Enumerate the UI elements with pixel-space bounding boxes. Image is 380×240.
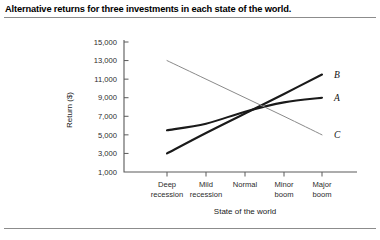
y-tick-label: 13,000 <box>94 56 117 65</box>
y-axis-title: Return ($) <box>65 92 74 128</box>
y-tick-label: 15,000 <box>94 38 117 47</box>
x-axis-category-labels: DeeprecessionMildrecessionNormalMinorboo… <box>151 180 332 199</box>
x-axis-tick-marks <box>167 172 322 177</box>
series-label-c: C <box>334 130 341 140</box>
x-category-label: recession <box>151 190 184 199</box>
y-tick-label: 1,000 <box>98 168 117 177</box>
series-label-b: B <box>334 70 340 80</box>
figure-divider-bottom <box>4 228 376 229</box>
series-lines <box>167 61 322 154</box>
axis-frame <box>124 40 357 172</box>
y-tick-label: 9,000 <box>98 93 117 102</box>
y-tick-label: 7,000 <box>98 112 117 121</box>
y-axis-tick-labels: 1,0003,0005,0007,0009,00011,00013,00015,… <box>94 38 117 177</box>
x-category-label: Normal <box>233 180 258 189</box>
x-category-label: Deep <box>158 180 176 189</box>
x-category-label: Major <box>313 180 332 189</box>
line-chart: 1,0003,0005,0007,0009,00011,00013,00015,… <box>0 18 380 228</box>
y-axis-tick-marks <box>124 42 129 153</box>
series-line-c <box>167 61 322 135</box>
y-tick-label: 5,000 <box>98 131 117 140</box>
x-category-label: Minor <box>275 180 294 189</box>
figure-caption: Alternative returns for three investment… <box>5 3 377 15</box>
figure-container: Alternative returns for three investment… <box>0 0 380 240</box>
x-category-label: boom <box>275 190 294 199</box>
series-label-a: A <box>333 93 340 103</box>
x-axis-title: State of the world <box>214 207 276 216</box>
series-end-labels: ABC <box>333 70 341 140</box>
x-category-label: Mild <box>199 180 213 189</box>
series-line-b <box>167 75 322 154</box>
y-tick-label: 11,000 <box>94 75 117 84</box>
x-category-label: boom <box>313 190 332 199</box>
y-tick-label: 3,000 <box>98 149 117 158</box>
x-category-label: recession <box>190 190 223 199</box>
